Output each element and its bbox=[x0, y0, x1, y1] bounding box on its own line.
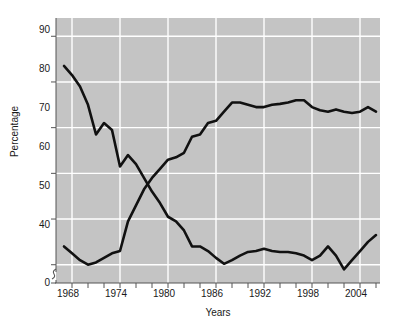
plot-background bbox=[56, 18, 380, 283]
y-axis-break-icon bbox=[52, 269, 56, 279]
plot-svg bbox=[0, 0, 397, 331]
chart-container: Percentage 90 80 70 60 50 40 0 1968 1974… bbox=[0, 0, 397, 331]
